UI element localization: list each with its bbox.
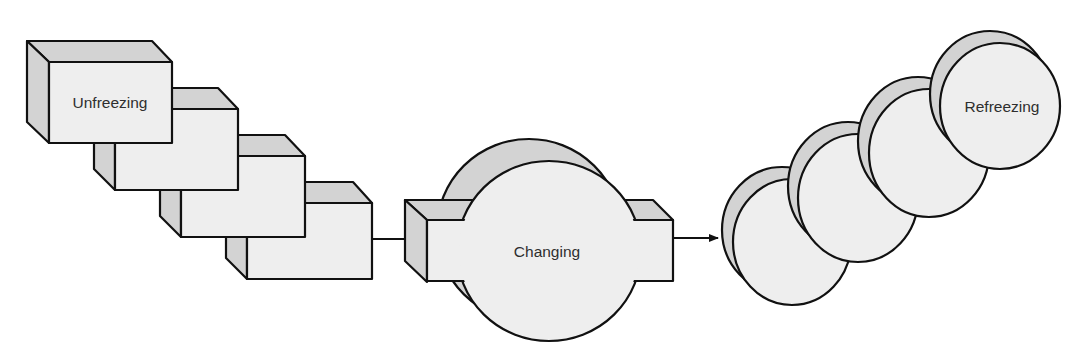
refreezing-label: Refreezing — [965, 98, 1040, 115]
changing-stage: Changing — [405, 139, 673, 341]
unfreezing-stage: Unfreezing — [27, 41, 372, 279]
change-model-diagram: Unfreezing Changing — [0, 0, 1080, 356]
refreezing-stage: Refreezing — [722, 31, 1060, 305]
unfreezing-box-1: Unfreezing — [27, 41, 172, 143]
unfreezing-label: Unfreezing — [73, 94, 148, 111]
changing-label: Changing — [514, 243, 580, 260]
